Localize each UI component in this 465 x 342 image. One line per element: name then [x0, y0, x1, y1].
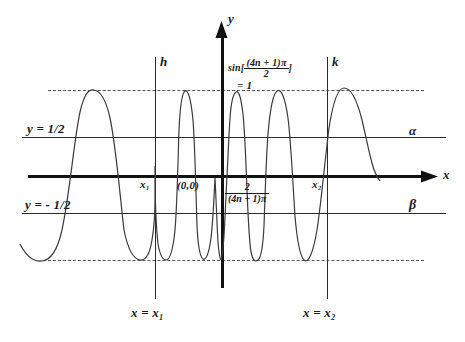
vertical-line-h-top-label: h [160, 55, 167, 68]
x-axis-label: x [443, 168, 450, 181]
x-value-numerator: 2 [225, 182, 269, 194]
y-axis-label: y [228, 12, 234, 25]
peak-formula-prefix: sin[ [228, 62, 244, 73]
math-figure: y x (0,0) y = 1/2 y = - 1/2 α β h k x₁ x… [0, 0, 465, 342]
x-axis [28, 175, 425, 178]
peak-formula-denominator: 2 [244, 69, 288, 79]
peak-value-equals: = 1 [237, 80, 252, 91]
origin-label: (0,0) [177, 180, 199, 191]
vertical-line-k-top-label: k [332, 55, 339, 68]
peak-formula-fraction: (4n + 1)π2 [244, 58, 288, 79]
beta-symbol-label: β [409, 198, 416, 212]
x-value-annotation: 2 (4n + 1)π [225, 182, 269, 204]
peak-value-annotation: sin[(4n + 1)π2] [228, 58, 292, 79]
beta-line [22, 213, 446, 214]
lower-envelope-dashed-line [48, 260, 424, 261]
beta-line-label: y = - 1/2 [25, 198, 71, 211]
peak-formula-suffix: ] [289, 62, 293, 73]
alpha-line-label: y = 1/2 [27, 122, 65, 135]
x-value-denominator: (4n + 1)π [225, 194, 269, 205]
x-equals-x2-caption: x = x₂ [303, 306, 336, 319]
curve-overlay [0, 0, 465, 342]
x-equals-x1-caption: x = x₁ [131, 306, 164, 319]
x2-axis-tick-label: x₂ [312, 179, 322, 190]
alpha-line [22, 137, 446, 138]
y-axis [221, 34, 224, 288]
x1-axis-tick-label: x₁ [140, 179, 150, 190]
vertical-line-k [327, 57, 328, 299]
upper-envelope-dashed-line [48, 90, 424, 91]
alpha-symbol-label: α [409, 124, 416, 137]
vertical-line-h [155, 57, 156, 299]
